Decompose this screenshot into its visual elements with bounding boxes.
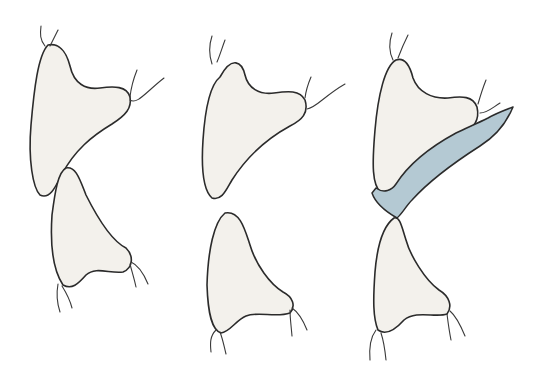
lower-tooth-crown <box>207 213 293 333</box>
upper-tooth-root-line <box>210 36 212 64</box>
upper-tooth-root-line <box>305 77 311 98</box>
upper-tooth-crown <box>30 45 130 196</box>
panel-1 <box>30 45 131 287</box>
lower-tooth-root-line <box>381 333 386 360</box>
lower-tooth-root-line <box>370 330 376 360</box>
lower-tooth-root-line <box>131 262 148 284</box>
lower-tooth-root-line <box>62 286 72 308</box>
lower-tooth-root-line <box>290 310 292 336</box>
upper-tooth-root-line <box>40 26 45 46</box>
lower-tooth-crown <box>374 218 450 333</box>
panel-2 <box>202 63 306 333</box>
lower-tooth-root-line <box>57 284 60 312</box>
lower-tooth-root-line <box>130 264 136 287</box>
upper-tooth-root-line <box>217 40 225 62</box>
dental-diagram <box>0 0 546 384</box>
upper-tooth-root-line <box>390 33 393 60</box>
lower-tooth-root-line <box>220 332 226 354</box>
upper-tooth-root-line <box>130 70 137 97</box>
upper-tooth-root-line <box>398 35 408 58</box>
lower-tooth-root-line <box>292 308 307 330</box>
lower-tooth-root-line <box>450 311 465 336</box>
teeth-layer <box>30 45 513 333</box>
upper-tooth-root-line <box>480 103 500 113</box>
upper-tooth-crown <box>202 63 306 199</box>
upper-tooth-root-line <box>478 80 486 104</box>
upper-tooth-root-line <box>130 78 164 101</box>
upper-tooth-root-line <box>307 84 345 109</box>
lower-tooth-crown <box>51 168 131 287</box>
upper-tooth-root-line <box>50 30 58 46</box>
lower-tooth-root-line <box>447 314 451 340</box>
lower-tooth-root-line <box>211 330 216 352</box>
